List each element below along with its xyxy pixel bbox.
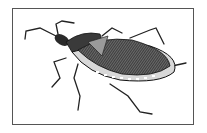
bug-body — [53, 32, 175, 81]
bug-illustration — [0, 0, 207, 133]
